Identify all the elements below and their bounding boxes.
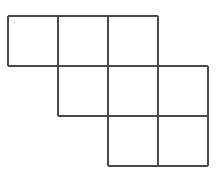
cell-r0c2 bbox=[108, 16, 158, 66]
cell-r1c3 bbox=[158, 66, 208, 116]
cell-r2c2 bbox=[108, 116, 158, 166]
cell-r0c1 bbox=[58, 16, 108, 66]
polyomino-figure bbox=[0, 0, 218, 176]
cell-r0c0 bbox=[8, 16, 58, 66]
figure-canvas bbox=[0, 0, 218, 176]
cell-r1c2 bbox=[108, 66, 158, 116]
cell-r2c3 bbox=[158, 116, 208, 166]
cell-r1c1 bbox=[58, 66, 108, 116]
